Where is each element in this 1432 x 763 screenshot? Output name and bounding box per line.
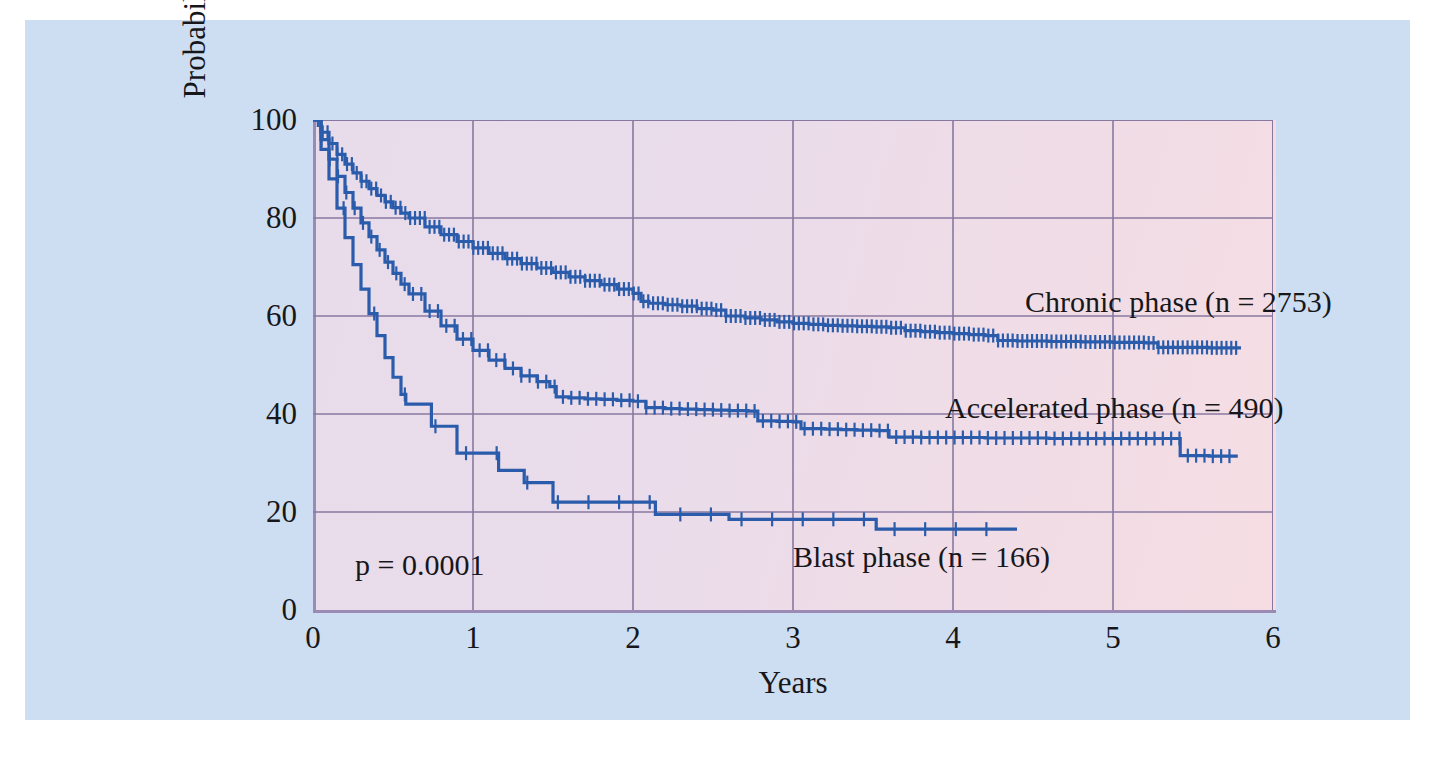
- figure-root: Probability of LFS (%) 100 80 60 40 20 0…: [0, 0, 1432, 763]
- plot-area-wrapper: [313, 120, 1273, 610]
- y-tick-label: 0: [282, 592, 298, 628]
- p-value-annotation: p = 0.0001: [355, 548, 484, 582]
- x-tick-label: 4: [945, 620, 961, 656]
- x-tick-label: 1: [465, 620, 481, 656]
- y-tick-label: 40: [266, 396, 297, 432]
- series-chronic: [313, 120, 1241, 355]
- survival-curves-svg: [313, 120, 1273, 610]
- gridlines: [313, 120, 1273, 610]
- x-tick-label: 6: [1265, 620, 1281, 656]
- x-tick-label: 5: [1105, 620, 1121, 656]
- x-axis-label: Years: [313, 665, 1273, 701]
- accelerated-phase-label: Accelerated phase (n = 490): [945, 391, 1283, 425]
- curve-paths: [313, 120, 1241, 536]
- figure-panel: Probability of LFS (%) 100 80 60 40 20 0…: [25, 20, 1410, 720]
- y-tick-label: 60: [266, 298, 297, 334]
- blast-phase-label: Blast phase (n = 166): [793, 540, 1050, 574]
- x-tick-label: 0: [305, 620, 321, 656]
- x-tick-label: 3: [785, 620, 801, 656]
- y-tick-label: 20: [266, 494, 297, 530]
- y-axis-tick-labels: 100 80 60 40 20 0: [205, 120, 297, 610]
- x-tick-label: 2: [625, 620, 641, 656]
- chronic-phase-label: Chronic phase (n = 2753): [1025, 285, 1332, 319]
- y-tick-label: 80: [266, 200, 297, 236]
- y-tick-label: 100: [251, 102, 298, 138]
- x-axis-tick-labels: 0 1 2 3 4 5 6: [313, 620, 1273, 664]
